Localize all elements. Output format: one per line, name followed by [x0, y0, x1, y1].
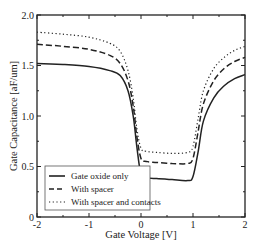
x-tick-label: -2 [33, 219, 41, 230]
y-tick-label: 2.0 [22, 10, 35, 21]
x-tick-label: 2 [243, 219, 248, 230]
curve-gate-oxide-only [37, 64, 245, 181]
curve-with-spacer [37, 44, 245, 164]
capacitance-chart: -2-1012 00.51.01.52.0 Gate Voltage [V] G… [0, 0, 260, 247]
x-axis-label: Gate Voltage [V] [105, 229, 176, 240]
y-tick-label: 0 [29, 212, 34, 223]
y-tick-labels: 00.51.01.52.0 [22, 10, 35, 223]
plot-curves [37, 32, 245, 181]
y-tick-label: 1.5 [22, 60, 35, 71]
y-tick-label: 0.5 [22, 161, 35, 172]
y-tick-label: 1.0 [22, 111, 35, 122]
curve-with-spacer-and-contacts [37, 32, 245, 153]
legend-label-gate-oxide: Gate oxide only [71, 171, 129, 181]
legend: Gate oxide only With spacer With spacer … [45, 166, 161, 210]
y-axis-label: Gate Capacitance [aF/um] [8, 61, 19, 171]
legend-label-spacer-contacts: With spacer and contacts [71, 197, 161, 207]
x-tick-label: -1 [85, 219, 93, 230]
x-tick-label: 1 [191, 219, 196, 230]
legend-label-with-spacer: With spacer [71, 184, 114, 194]
